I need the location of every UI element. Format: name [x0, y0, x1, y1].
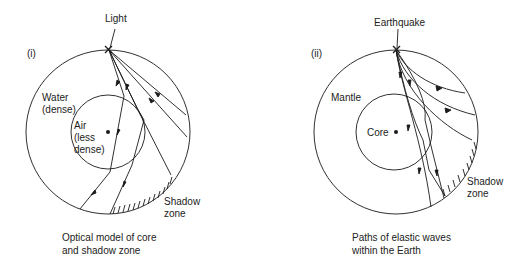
caption-i-line-2: and shadow zone: [62, 244, 140, 257]
air-less-label: (less: [74, 132, 95, 144]
caption-ii-line-2: within the Earth: [352, 244, 421, 257]
panel-ii-number: (ii): [311, 48, 322, 60]
water-dense-label: (dense): [42, 104, 76, 116]
shadow-zone-label-i-2: zone: [164, 208, 186, 220]
caption-ii-line-1: Paths of elastic waves: [352, 231, 451, 244]
shadow-zone-label-ii-2: zone: [467, 188, 489, 200]
shadow-zone-label-ii-1: Shadow: [467, 176, 503, 188]
air-label: Air: [74, 120, 86, 132]
mantle-label: Mantle: [331, 92, 361, 104]
panel-i-number: (i): [27, 48, 36, 60]
light-pointer: [110, 29, 115, 48]
core-center-dot: [394, 130, 398, 134]
panel-ii-diagram: [314, 29, 478, 214]
shadow-zone-label-i-1: Shadow: [164, 196, 200, 208]
panel-i-diagram: [26, 29, 190, 214]
ray-4: [80, 50, 124, 209]
earthquake-source-label: Earthquake: [374, 17, 425, 29]
ray-2: [109, 50, 187, 137]
air-dense-label: dense): [74, 144, 105, 156]
caption-i-line-1: Optical model of core: [62, 231, 157, 244]
water-label: Water: [42, 92, 68, 104]
core-label: Core: [367, 127, 389, 139]
earthquake-pointer: [397, 29, 398, 48]
center-dot: [106, 130, 110, 134]
light-source-label: Light: [105, 13, 127, 25]
